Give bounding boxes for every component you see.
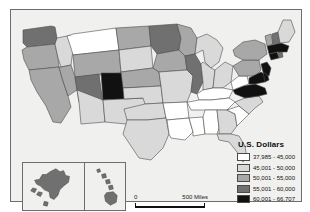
legend-row: 55,001 - 60,000 (237, 184, 309, 194)
legend-label: 50,001 - 55,000 (253, 174, 295, 182)
legend-swatch (237, 185, 250, 193)
map-neatline-frame: 0 500 Miles U.S. Dollars 37,985 - 45,000… (10, 9, 302, 202)
state-NE[interactable] (121, 68, 161, 88)
state-LA[interactable] (167, 118, 193, 140)
state-SD[interactable] (119, 46, 153, 72)
scale-bar: 0 500 Miles (134, 193, 208, 210)
state-MO[interactable] (159, 70, 193, 103)
legend-row: 37,985 - 45,000 (237, 152, 309, 162)
legend-title: U.S. Dollars (238, 140, 309, 149)
legend-swatch (237, 164, 250, 172)
state-AL[interactable] (203, 110, 219, 134)
state-MN[interactable] (149, 24, 181, 54)
state-HI[interactable] (97, 169, 117, 205)
legend-label: 55,001 - 60,000 (253, 185, 295, 193)
state-TN[interactable] (187, 98, 235, 110)
state-OR[interactable] (22, 44, 59, 70)
state-ME[interactable] (278, 20, 295, 43)
state-WA[interactable] (23, 26, 57, 47)
state-AK[interactable] (31, 169, 70, 206)
legend-row: 50,001 - 55,000 (237, 173, 309, 183)
scale-bar-max-label: 500 Miles (182, 193, 208, 202)
legend-label: 60,001 - 66,707 (253, 195, 295, 203)
legend-row: 60,001 - 66,707 (237, 194, 309, 204)
legend-label: 45,001 - 50,000 (253, 164, 295, 172)
scale-bar-zero-label: 0 (134, 193, 137, 202)
legend-label: 37,985 - 45,000 (253, 153, 295, 161)
state-OH[interactable] (213, 62, 233, 88)
state-TX[interactable] (123, 118, 169, 160)
legend-row: 45,001 - 50,000 (237, 163, 309, 173)
scale-bar-graphic (135, 203, 205, 208)
scale-bar-labels: 0 500 Miles (134, 193, 208, 202)
legend-rows: 37,985 - 45,00045,001 - 50,00050,001 - 5… (237, 152, 309, 204)
state-AR[interactable] (163, 102, 189, 120)
hawaii-svg (85, 163, 125, 210)
inset-alaska-box (22, 162, 85, 211)
state-VT[interactable] (265, 34, 273, 46)
state-NY[interactable] (233, 40, 267, 60)
scale-bar-rule (135, 206, 205, 208)
choropleth-map-figure: 0 500 Miles U.S. Dollars 37,985 - 45,000… (0, 0, 310, 212)
legend-swatch (237, 174, 250, 182)
inset-maps-group (22, 162, 126, 211)
inset-hawaii-box (85, 162, 126, 211)
legend-swatch (237, 153, 250, 161)
scale-bar-tick-right (204, 203, 205, 208)
legend-swatch (237, 195, 250, 203)
alaska-svg (23, 163, 84, 210)
state-PA[interactable] (233, 60, 261, 76)
map-legend: U.S. Dollars 37,985 - 45,00045,001 - 50,… (237, 140, 309, 205)
